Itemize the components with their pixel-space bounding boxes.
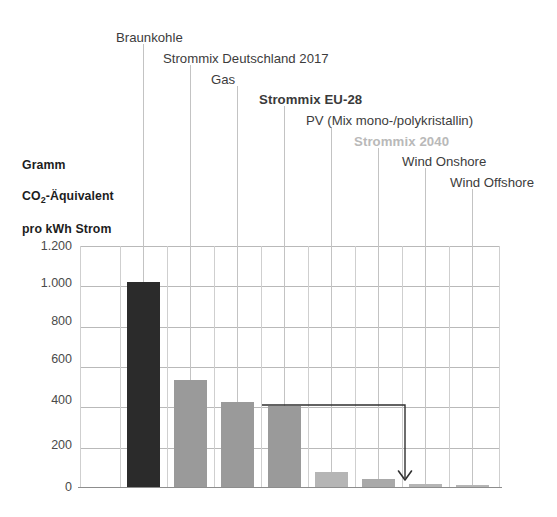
- leader-line-4: [331, 127, 332, 472]
- bar-strommix-deutschland-2017: [174, 380, 207, 488]
- y-tick-label-0: 0: [0, 480, 72, 494]
- gridline-v-6: [355, 246, 356, 488]
- x-axis-line: [78, 487, 502, 488]
- gridline-v-8: [449, 246, 450, 488]
- callout-strommix-de-2017: Strommix Deutschland 2017: [163, 52, 329, 66]
- y-tick-label-800: 800: [0, 314, 72, 328]
- bar-strommix-eu-28: [268, 406, 301, 488]
- chart-root: 1.200 1.000 800 600 400 200 0 Gramm CO2-…: [0, 0, 557, 517]
- plot-area: [80, 246, 500, 488]
- y-axis-title-line3: pro kWh Strom: [22, 222, 114, 237]
- y-axis-title-line1: Gramm: [22, 158, 114, 173]
- callout-wind-offshore: Wind Offshore: [450, 176, 534, 190]
- callout-wind-onshore: Wind Onshore: [402, 155, 486, 169]
- gridline-v-5: [308, 246, 309, 488]
- leader-line-1: [190, 65, 191, 380]
- gridline-v-3: [214, 246, 215, 488]
- callout-strommix-eu-28: Strommix EU-28: [259, 93, 362, 107]
- y-tick-label-1000: 1.000: [0, 276, 72, 290]
- y-axis-title-line2: CO2-Äquivalent: [22, 189, 114, 207]
- bar-pv-mix-mono-polykristallin: [315, 472, 348, 488]
- callout-strommix-2040: Strommix 2040: [354, 135, 449, 149]
- leader-line-6: [425, 168, 426, 484]
- gridline-v-2: [167, 246, 168, 488]
- callout-pv: PV (Mix mono-/polykristallin): [306, 114, 473, 128]
- gridline-v-1: [120, 246, 121, 488]
- leader-line-2: [237, 86, 238, 402]
- callout-braunkohle: Braunkohle: [116, 31, 183, 45]
- leader-line-7: [472, 189, 473, 485]
- y-tick-label-400: 400: [0, 393, 72, 407]
- leader-line-5: [378, 148, 379, 479]
- gridline-v-4: [261, 246, 262, 488]
- leader-line-3: [284, 106, 285, 406]
- gridline-v-0: [80, 246, 81, 488]
- y-tick-label-600: 600: [0, 352, 72, 366]
- gridline-v-7: [402, 246, 403, 488]
- bar-braunkohle: [127, 282, 160, 488]
- y-tick-label-200: 200: [0, 438, 72, 452]
- gridline-v-9: [499, 246, 500, 488]
- leader-line-0: [143, 44, 144, 282]
- bar-gas: [221, 402, 254, 488]
- callout-gas: Gas: [211, 73, 235, 87]
- y-axis-title: Gramm CO2-Äquivalent pro kWh Strom: [22, 143, 114, 253]
